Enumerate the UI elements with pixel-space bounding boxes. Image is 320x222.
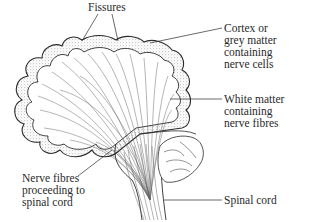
- nerve-fibres-label: Nerve fibres proceeding to spinal cord: [22, 172, 85, 208]
- cortex-leader: [150, 28, 222, 43]
- fissures-label: Fissures: [88, 1, 126, 13]
- white-matter-label: White matter containing nerve fibres: [224, 93, 284, 129]
- cortex-label: Cortex or grey matter containing nerve c…: [224, 22, 277, 70]
- spinal-cord-label: Spinal cord: [224, 194, 277, 206]
- fissure-leader-right: [112, 14, 118, 41]
